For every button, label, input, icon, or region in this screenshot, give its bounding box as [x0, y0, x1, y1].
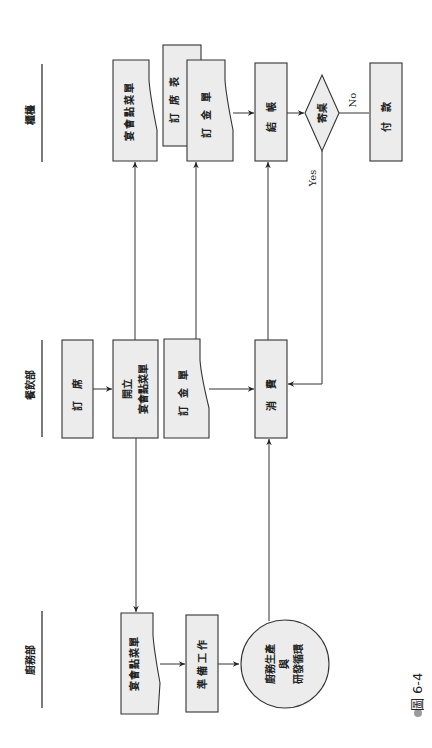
node-dining-deposit-doc: 訂金單 — [164, 339, 209, 438]
node-label: 付款 — [380, 92, 392, 132]
node-counter-deposit-doc: 訂金單 — [187, 60, 233, 161]
lane-counter: 櫃檯 — [24, 64, 42, 162]
node-label: 訂金單 — [177, 362, 189, 416]
node-label-line2: 宴會點菜單 — [137, 364, 149, 414]
lane-label-counter: 櫃檯 — [24, 105, 36, 125]
lane-kitchen: 廚務部 — [24, 611, 42, 708]
node-label: 消費 — [265, 367, 277, 411]
node-label: 寄桌 — [316, 103, 328, 123]
node-label: 訂席表 — [168, 69, 180, 123]
node-reservation: 訂席 — [62, 340, 93, 438]
caption-text: 圖 6-4 — [410, 673, 425, 711]
node-consumption: 消費 — [255, 340, 287, 438]
edge-label-no: No — [347, 93, 358, 108]
node-label-line2: 與 — [278, 659, 290, 669]
node-kitchen-cycle: 廚務生產 與 研發循環 — [241, 620, 329, 708]
node-counter-menu-doc: 宴會點菜單 — [113, 60, 157, 161]
node-issue-menu: 開立 宴會點菜單 — [113, 340, 158, 438]
lane-dining: 餐飲部 — [24, 340, 42, 437]
figure-caption: 圖 6-4 — [410, 673, 425, 717]
node-charge-to-account: 寄桌 — [305, 75, 339, 151]
node-label: 訂金單 — [200, 84, 212, 138]
node-payment: 付款 — [370, 63, 402, 161]
lane-label-kitchen: 廚務部 — [24, 645, 36, 675]
node-label: 訂席 — [71, 367, 83, 411]
node-label-line1: 開立 — [121, 379, 133, 399]
node-label: 結帳 — [265, 92, 277, 132]
node-preparation: 準備工作 — [186, 615, 218, 712]
lane-label-dining: 餐飲部 — [24, 370, 36, 401]
node-label: 準備工作 — [196, 637, 208, 689]
node-label-line1: 廚務生產 — [264, 644, 276, 684]
node-label: 宴會點菜單 — [128, 636, 140, 691]
flowchart-diagram: 櫃檯 餐飲部 廚務部 Yes No 宴會點菜單 訂席表 — [0, 0, 432, 748]
node-label-line3: 研發循環 — [292, 643, 304, 684]
node-checkout: 結帳 — [255, 63, 287, 161]
node-kitchen-menu-doc: 宴會點菜單 — [121, 613, 160, 714]
node-label: 宴會點菜單 — [123, 81, 135, 141]
edge-label-yes: Yes — [307, 170, 318, 188]
